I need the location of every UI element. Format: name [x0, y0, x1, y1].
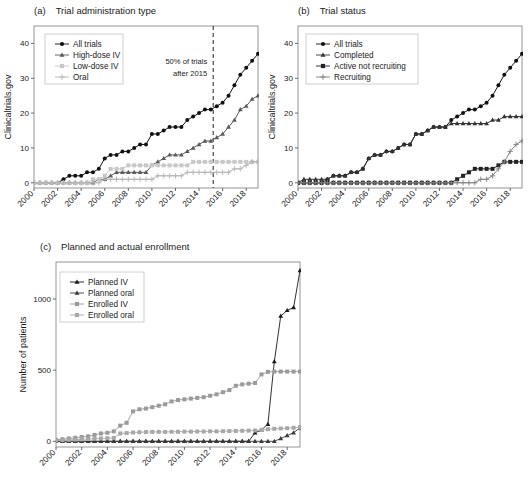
data-point-marker — [161, 173, 166, 178]
data-point-marker — [203, 160, 207, 164]
data-point-marker — [149, 177, 154, 182]
data-point-marker — [253, 428, 257, 432]
data-point-marker — [173, 173, 178, 178]
annotation-line1: 50% of trials — [165, 57, 207, 66]
legend: All trialsHigh-dose IVLow-dose IVOral — [45, 34, 123, 84]
legend-label[interactable]: Oral — [73, 73, 89, 82]
legend-label[interactable]: Active not recruiting — [334, 62, 406, 71]
legend-label[interactable]: All trials — [334, 40, 363, 49]
data-point-marker — [162, 163, 166, 167]
legend-label[interactable]: Enrolled oral — [88, 311, 134, 320]
data-point-marker — [115, 167, 119, 171]
data-point-marker — [259, 372, 263, 376]
y-tick-label: 40 — [20, 39, 29, 48]
x-tick-label: 2006 — [114, 447, 134, 467]
legend-label[interactable]: Completed — [334, 51, 374, 60]
legend-label[interactable]: Planned oral — [88, 289, 134, 298]
data-point-marker — [221, 390, 225, 394]
x-tick-label: 2008 — [373, 188, 393, 208]
data-point-marker — [279, 370, 283, 374]
y-tick-label: 20 — [20, 109, 29, 118]
data-point-marker — [221, 429, 225, 433]
data-point-marker — [232, 118, 237, 122]
panel-b-tag: (b) — [298, 5, 310, 16]
data-point-marker — [120, 167, 124, 171]
y-tick-label: 30 — [284, 74, 293, 83]
x-tick-label: 2000 — [15, 188, 35, 208]
y-tick-label: 500 — [38, 366, 52, 375]
y-tick-label: 10 — [20, 144, 29, 153]
data-point-marker — [157, 430, 161, 434]
data-point-marker — [227, 429, 231, 433]
legend-label[interactable]: High-dose IV — [73, 51, 121, 60]
data-point-marker — [99, 431, 103, 435]
data-point-marker — [155, 159, 160, 163]
data-point-marker — [209, 108, 213, 112]
data-point-marker — [85, 170, 89, 174]
data-point-marker — [202, 170, 207, 175]
data-point-marker — [185, 163, 189, 167]
legend-label[interactable]: Enrolled IV — [88, 300, 129, 309]
data-point-marker — [132, 177, 137, 182]
y-axis: 010203040 — [284, 39, 298, 187]
data-point-marker — [93, 437, 97, 441]
y-tick-label: 0 — [289, 179, 294, 188]
data-point-marker — [120, 177, 125, 182]
data-point-marker — [232, 160, 236, 164]
data-point-marker — [214, 170, 219, 175]
data-point-marker — [195, 429, 199, 433]
panel-b-heading: (b) Trial status — [264, 0, 528, 16]
data-point-marker — [238, 73, 242, 77]
data-point-marker — [197, 111, 201, 115]
data-point-marker — [103, 156, 107, 160]
y-axis-label: Clinicaltrials.gov — [267, 74, 277, 140]
data-point-marker — [115, 153, 119, 157]
data-point-marker — [266, 427, 270, 431]
data-point-marker — [173, 163, 177, 167]
data-point-marker — [150, 405, 154, 409]
data-point-marker — [508, 66, 512, 70]
data-point-marker — [163, 402, 167, 406]
data-point-marker — [208, 429, 212, 433]
data-point-marker — [126, 163, 130, 167]
data-point-marker — [226, 170, 231, 175]
data-point-marker — [520, 160, 524, 164]
data-point-marker — [126, 177, 131, 182]
data-point-marker — [197, 142, 202, 146]
series-1 — [54, 425, 303, 443]
data-point-marker — [162, 129, 166, 133]
data-point-marker — [120, 149, 124, 153]
data-point-marker — [215, 392, 219, 396]
legend-label[interactable]: Recruiting — [334, 73, 371, 82]
panel-a-title: Trial administration type — [56, 5, 157, 16]
data-point-marker — [185, 170, 190, 175]
data-point-marker — [191, 115, 195, 119]
data-point-marker — [202, 429, 206, 433]
y-axis: 010203040 — [20, 39, 34, 187]
legend-label[interactable]: All trials — [73, 40, 102, 49]
legend: All trialsCompletedActive not recruiting… — [306, 34, 418, 84]
data-point-marker — [156, 163, 160, 167]
data-point-marker — [173, 125, 177, 129]
data-point-marker — [291, 305, 296, 309]
panel-c-chart: 05001000Number of patients20002002200420… — [10, 252, 310, 495]
series-1 — [32, 93, 261, 184]
panel-a-heading: (a) Trial administration type — [0, 0, 264, 16]
x-tick-label: 2006 — [86, 188, 106, 208]
data-point-marker — [247, 429, 251, 433]
data-point-marker — [208, 394, 212, 398]
series-1 — [296, 114, 525, 184]
panel-c-heading: (c) Planned and actual enrollment — [10, 236, 310, 252]
legend-label[interactable]: Planned IV — [88, 278, 129, 287]
legend-label[interactable]: Low-dose IV — [73, 62, 119, 71]
x-tick-label: 2004 — [89, 447, 109, 467]
data-point-marker — [244, 66, 248, 70]
data-point-marker — [298, 268, 303, 272]
panel-a: (a) Trial administration type 010203040C… — [0, 0, 264, 238]
data-point-marker — [156, 132, 160, 136]
data-point-marker — [137, 177, 142, 182]
data-point-marker — [232, 166, 237, 171]
data-point-marker — [75, 302, 79, 306]
data-point-marker — [161, 156, 166, 160]
data-point-marker — [321, 42, 325, 46]
